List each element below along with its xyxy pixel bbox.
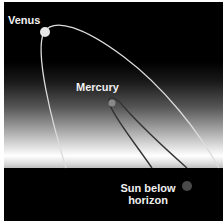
sun-label: Sun below horizon [118, 182, 178, 206]
mercury-orbit [109, 97, 187, 168]
venus-label: Venus [8, 14, 40, 26]
mercury-planet-icon [109, 100, 116, 107]
venus-planet-icon [40, 27, 50, 37]
sky-scene: Venus Mercury Sun below horizon [4, 2, 223, 221]
mercury-label: Mercury [76, 81, 119, 93]
orbit-paths [4, 2, 223, 221]
venus-orbit [41, 25, 219, 168]
sun-icon [182, 181, 192, 191]
sun-label-line1: Sun below [118, 182, 178, 194]
diagram-frame: Venus Mercury Sun below horizon [0, 0, 223, 224]
sun-label-line2: horizon [118, 194, 178, 206]
